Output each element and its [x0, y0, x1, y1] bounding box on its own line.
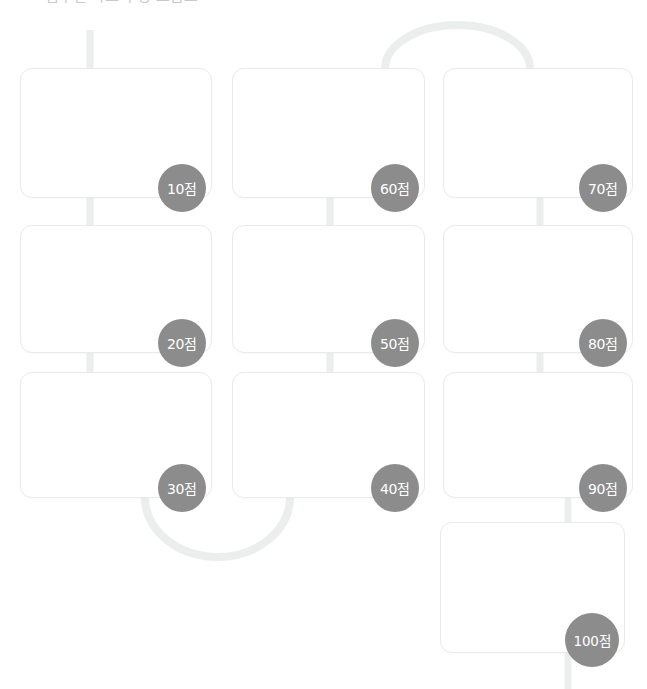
- flow-card-layer: 10점60점70점20점50점80점30점40점90점100점: [0, 0, 647, 689]
- score-badge-60: 60점: [371, 164, 419, 212]
- score-badge-20: 20점: [158, 319, 206, 367]
- score-badge-10: 10점: [158, 164, 206, 212]
- score-badge-80: 80점: [579, 319, 627, 367]
- score-badge-70: 70점: [579, 164, 627, 212]
- score-badge-40: 40점: [371, 464, 419, 512]
- score-badge-100: 100점: [565, 613, 619, 667]
- score-badge-30: 30점: [158, 464, 206, 512]
- score-badge-50: 50점: [371, 319, 419, 367]
- score-badge-90: 90점: [579, 464, 627, 512]
